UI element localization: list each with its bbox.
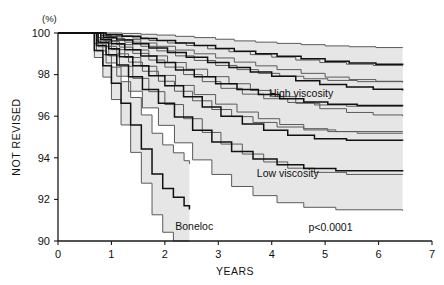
survival-chart-figure: 909294969810001234567(%)YEARSNOT REVISED…: [0, 0, 444, 285]
y-axis-tick-label: 98: [38, 68, 50, 80]
survival-chart-svg: 909294969810001234567(%)YEARSNOT REVISED…: [0, 0, 444, 285]
x-axis-tick-label: 3: [215, 248, 221, 260]
x-axis-tick-label: 7: [429, 248, 435, 260]
x-axis-tick-label: 2: [162, 248, 168, 260]
annotation-label: Boneloc: [175, 220, 213, 232]
annotation-label: p<0.0001: [308, 221, 352, 233]
y-axis-tick-label: 94: [38, 152, 50, 164]
y-axis-title: NOT REVISED: [10, 98, 22, 176]
annotation-label: High viscosity: [269, 87, 334, 99]
x-axis-tick-label: 6: [376, 248, 382, 260]
x-axis-tick-label: 5: [322, 248, 328, 260]
x-axis-tick-label: 4: [269, 248, 275, 260]
y-axis-tick-label: 96: [38, 110, 50, 122]
x-axis-title: YEARS: [216, 265, 254, 277]
y-axis-tick-label: 100: [32, 27, 50, 39]
x-axis-tick-label: 0: [55, 248, 61, 260]
y-axis-unit-label: (%): [42, 13, 57, 24]
y-axis-tick-label: 92: [38, 193, 50, 205]
annotation-label: Low viscosity: [257, 167, 320, 179]
y-axis-tick-label: 90: [38, 235, 50, 247]
x-axis-tick-label: 1: [108, 248, 114, 260]
